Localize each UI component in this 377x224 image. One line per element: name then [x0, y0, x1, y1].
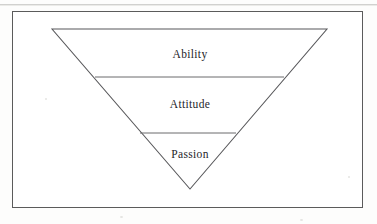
tier-label-ability: Ability — [172, 48, 207, 60]
tier-label-passion: Passion — [171, 148, 209, 160]
scan-speck — [348, 176, 350, 178]
tier-label-attitude: Attitude — [170, 98, 211, 110]
scan-speck — [120, 216, 123, 218]
scan-speck — [45, 98, 47, 100]
scan-artifact-line-lower — [0, 5, 377, 6]
scan-speck — [300, 219, 303, 221]
